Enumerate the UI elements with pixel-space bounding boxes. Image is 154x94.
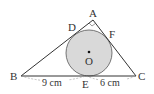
label-c: C	[138, 70, 145, 82]
measurement-be: 9 cm	[42, 77, 62, 88]
label-d: D	[68, 21, 76, 33]
center-point-o	[88, 51, 91, 54]
label-e: E	[82, 78, 89, 90]
measurement-ec: 6 cm	[100, 77, 120, 88]
label-o: O	[85, 55, 93, 67]
label-f: F	[109, 28, 115, 40]
label-b: B	[10, 70, 17, 82]
right-angle-mark	[89, 23, 96, 26]
label-a: A	[89, 7, 97, 19]
geometry-diagram: A B C D E F O 9 cm 6 cm	[0, 0, 154, 94]
